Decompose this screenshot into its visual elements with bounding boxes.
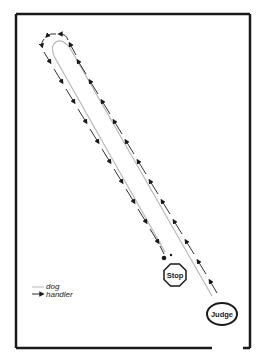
stop-station: Stop [164, 264, 186, 286]
handler-end-dot [162, 256, 167, 261]
legend-handler-label: handler [46, 290, 73, 299]
dog-end-dot [170, 254, 172, 256]
stop-label: Stop [167, 271, 184, 280]
course-diagram: Stop Judge dog handler [0, 0, 263, 363]
judge-station: Judge [207, 303, 237, 325]
dog-path [52, 41, 212, 296]
handler-path [42, 34, 217, 293]
judge-label: Judge [211, 310, 233, 319]
legend: dog handler [32, 282, 73, 299]
